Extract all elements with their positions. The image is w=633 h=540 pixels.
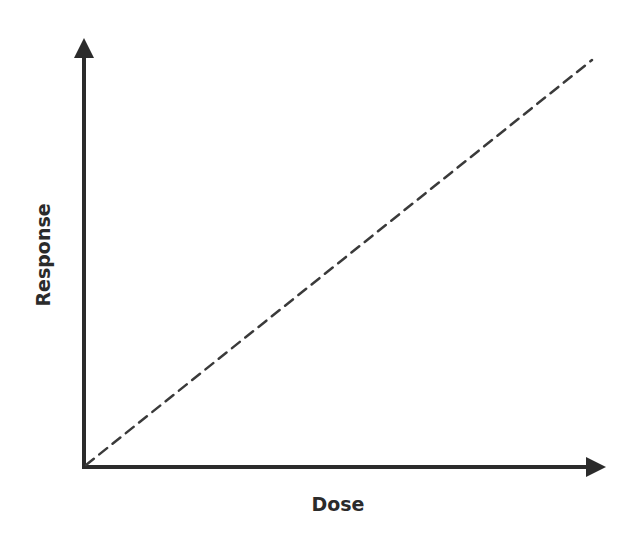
x-axis-label: Dose bbox=[311, 493, 364, 515]
y-axis-arrow-icon bbox=[74, 38, 94, 58]
x-axis-arrow-icon bbox=[586, 457, 606, 477]
y-axis-label: Response bbox=[32, 203, 54, 306]
dose-response-line bbox=[86, 60, 592, 465]
dose-response-chart: Dose Response bbox=[0, 0, 633, 540]
